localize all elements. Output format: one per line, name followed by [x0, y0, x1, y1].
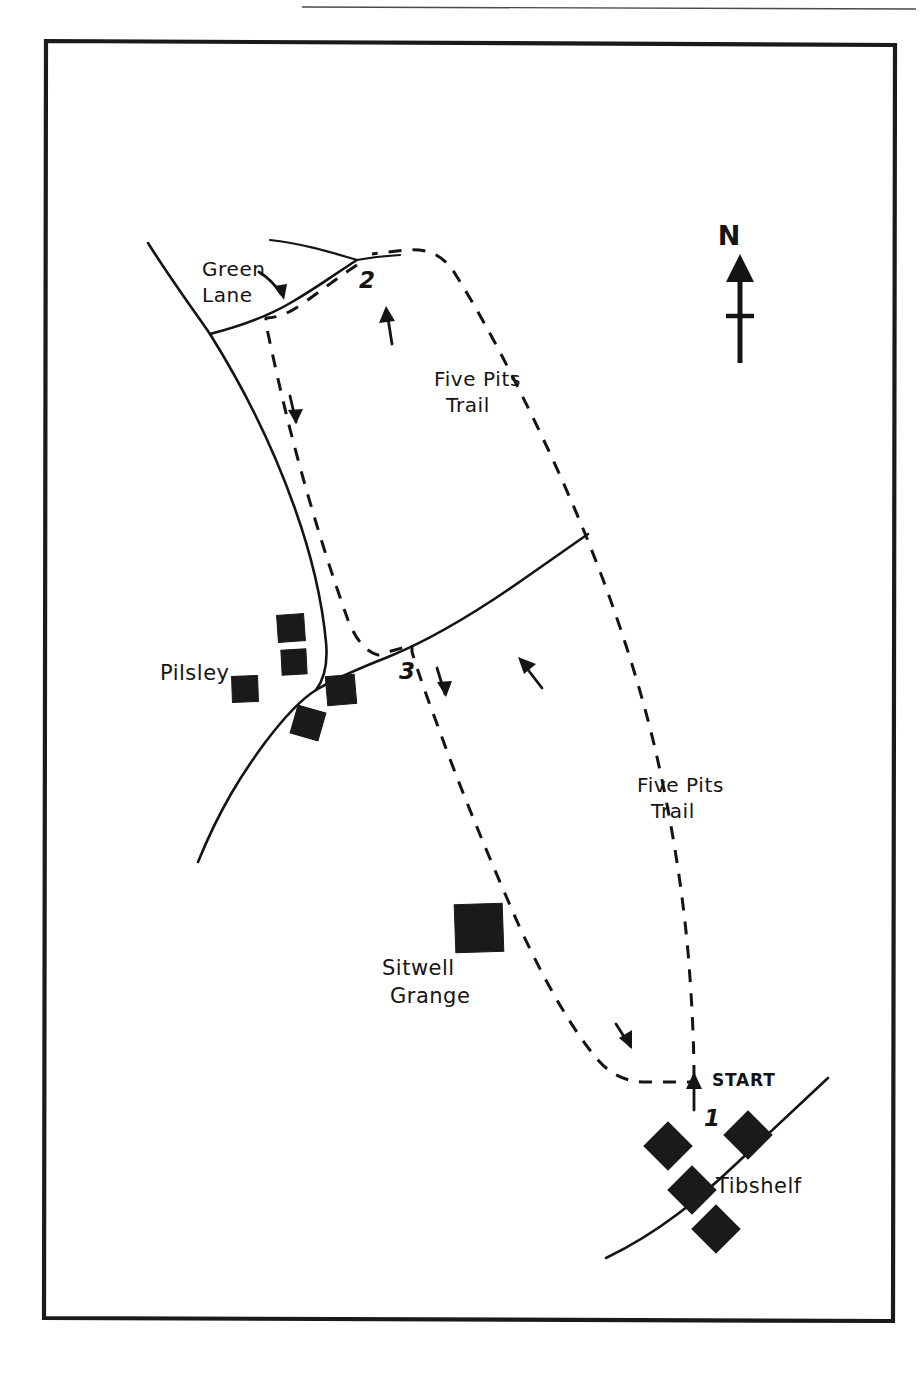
hand-drawn-route-map: N Green Lane Five Pits Trail Five Pits T… — [0, 0, 920, 1375]
five-pits-trail-south-line2: Trail — [650, 799, 695, 823]
five-pits-trail-south-line1: Five Pits — [637, 773, 724, 797]
building-block — [325, 674, 356, 705]
north-arrow-label: N — [718, 220, 741, 251]
sitwell-grange-line1: Sitwell — [382, 956, 455, 980]
building-block — [232, 676, 259, 703]
sitwell-grange-line2: Grange — [390, 984, 470, 1008]
green-lane-label-line2: Lane — [202, 283, 253, 307]
building-block — [454, 903, 504, 953]
waypoint-3-label: 3 — [399, 658, 415, 684]
buildings-sitwell-grange — [454, 903, 504, 953]
waypoint-2-label: 2 — [359, 267, 375, 293]
five-pits-trail-north-line1: Five Pits — [434, 367, 521, 391]
label-pilsley: Pilsley — [160, 661, 230, 685]
waypoint-1-label: 1 — [704, 1105, 720, 1131]
page-background — [0, 0, 920, 1375]
five-pits-trail-north-line2: Trail — [445, 393, 490, 417]
start-marker-label: START — [712, 1070, 776, 1090]
label-tibshelf: Tibshelf — [715, 1174, 802, 1198]
building-block — [277, 614, 306, 643]
map-canvas: N Green Lane Five Pits Trail Five Pits T… — [0, 0, 920, 1375]
green-lane-label-line1: Green — [202, 257, 266, 281]
building-block — [281, 649, 307, 675]
